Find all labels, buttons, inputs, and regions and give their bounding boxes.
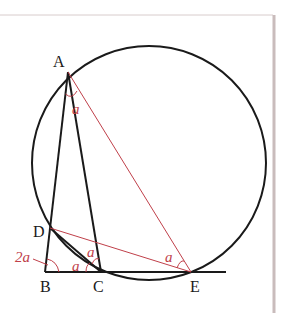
- angle-label-b: 2a: [15, 249, 30, 265]
- geometry-diagram: A D B C E a 2a a a a: [0, 0, 283, 313]
- label-b: B: [40, 278, 51, 295]
- label-a: A: [53, 53, 65, 70]
- angle-label-a: a: [72, 101, 80, 117]
- label-c: C: [93, 278, 104, 295]
- angle-arc-e: [177, 261, 184, 268]
- segment-a-e: [68, 72, 191, 272]
- angle-label-e: a: [165, 249, 173, 265]
- angle-label-c-upper: a: [87, 244, 95, 260]
- diagram-frame: A D B C E a 2a a a a: [0, 0, 283, 313]
- angle-label-c-lower: a: [72, 258, 80, 274]
- angle-arc-b: [47, 259, 59, 272]
- label-d: D: [33, 223, 45, 240]
- label-e: E: [190, 278, 200, 295]
